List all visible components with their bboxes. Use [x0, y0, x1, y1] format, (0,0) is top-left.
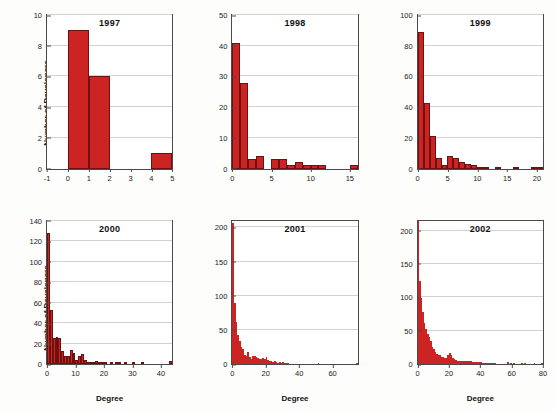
y-tick-label: 10	[219, 133, 232, 142]
y-tick-label: 40	[34, 319, 47, 328]
x-axis-label-2001: Degree	[231, 394, 358, 403]
y-tick-label: 40	[404, 103, 417, 112]
panel-title-2002: 2002	[417, 224, 544, 234]
bars-2002	[418, 221, 543, 365]
panel-title-1998: 1998	[231, 18, 358, 28]
subplot-grid: Number of Developers 0246810-1012345 199…	[0, 0, 556, 411]
y-tick-label: 150	[215, 257, 233, 266]
histogram-bar	[110, 362, 113, 364]
y-tick-label: 120	[29, 237, 47, 246]
histogram-bar	[534, 363, 536, 364]
histogram-bar	[287, 165, 295, 168]
histogram-bar	[513, 167, 519, 169]
x-tick-label: 60	[507, 364, 515, 378]
plot-area-2002: 050100150200020406080	[417, 220, 544, 366]
y-tick-label: 60	[404, 72, 417, 81]
histogram-bar	[495, 167, 501, 169]
plot-area-1998: 01020304050051015	[231, 14, 358, 170]
y-tick-label: 200	[400, 226, 418, 235]
x-tick-label: 1	[87, 169, 91, 183]
panel-2001: 0501001502000204060 2001 Degree	[185, 206, 370, 411]
histogram-bar	[318, 363, 320, 364]
y-tick-label: 50	[219, 11, 232, 20]
x-tick-label: 0	[66, 169, 70, 183]
x-tick-label: 2	[108, 169, 112, 183]
x-tick-label: 4	[149, 169, 153, 183]
x-tick-label: 5	[269, 169, 273, 183]
x-tick-label: 20	[100, 364, 108, 378]
histogram-bar	[287, 363, 289, 364]
histogram-bar	[356, 363, 358, 364]
histogram-bar	[169, 361, 172, 364]
x-tick-label: 15	[503, 169, 511, 183]
histogram-bar	[248, 159, 256, 168]
y-tick-label: 100	[29, 257, 47, 266]
y-tick-label: 100	[400, 11, 418, 20]
x-tick-label: 40	[295, 364, 303, 378]
y-tick-label: 20	[219, 103, 232, 112]
panel-title-2001: 2001	[231, 224, 358, 234]
panel-1997: Number of Developers 0246810-1012345 199…	[0, 0, 185, 206]
x-tick-label: 0	[230, 169, 234, 183]
plot-area-2001: 0501001502000204060	[231, 220, 358, 366]
y-tick-label: 50	[404, 326, 417, 335]
histogram-bar	[256, 156, 264, 168]
x-tick-label: 3	[128, 169, 132, 183]
x-tick-label: 40	[157, 364, 165, 378]
x-tick-label: 20	[533, 169, 541, 183]
y-tick-label: 4	[38, 103, 47, 112]
histogram-bar	[118, 362, 121, 364]
y-tick-label: 100	[400, 293, 418, 302]
y-tick-label: 100	[215, 291, 233, 300]
histogram-bar	[295, 162, 303, 168]
x-tick-label: -1	[44, 169, 51, 183]
x-axis-label-2000: Degree	[46, 394, 173, 403]
x-tick-label: 40	[476, 364, 484, 378]
x-tick-label: 5	[170, 169, 174, 183]
histogram-bar	[68, 30, 89, 168]
bars-1998	[232, 15, 357, 169]
y-tick-label: 40	[219, 41, 232, 50]
panel-title-1999: 1999	[417, 18, 544, 28]
x-tick-label: 5	[445, 169, 449, 183]
x-axis-label-2002: Degree	[417, 394, 544, 403]
panel-1998: 01020304050051015 1998	[185, 0, 370, 206]
bars-1999	[418, 15, 543, 169]
plot-area-1997: 0246810-1012345	[46, 14, 173, 170]
panel-1999: 02040608010005101520 1999	[371, 0, 556, 206]
y-tick-label: 150	[400, 259, 418, 268]
x-tick-label: 20	[445, 364, 453, 378]
histogram-bar	[524, 363, 526, 364]
histogram-bar	[232, 43, 240, 169]
x-tick-label: 0	[230, 364, 234, 378]
y-tick-label: 140	[29, 216, 47, 225]
y-tick-label: 60	[34, 298, 47, 307]
y-tick-label: 8	[38, 41, 47, 50]
y-tick-label: 10	[34, 11, 47, 20]
x-tick-label: 0	[416, 169, 420, 183]
x-tick-label: 30	[128, 364, 136, 378]
x-tick-label: 20	[262, 364, 270, 378]
y-tick-label: 20	[34, 339, 47, 348]
figure-panel-grid: Number of Developers 0246810-1012345 199…	[0, 0, 556, 411]
histogram-bar	[151, 153, 172, 168]
y-tick-label: 80	[34, 278, 47, 287]
x-tick-label: 10	[473, 169, 481, 183]
y-tick-label: 2	[38, 133, 47, 142]
panel-title-2000: 2000	[46, 224, 173, 234]
bars-2000	[47, 221, 172, 365]
histogram-bar	[240, 83, 248, 169]
x-tick-label: 80	[539, 364, 547, 378]
y-tick-label: 80	[404, 41, 417, 50]
histogram-bar	[124, 362, 127, 364]
histogram-bar	[279, 159, 287, 168]
y-tick-label: 30	[219, 72, 232, 81]
y-tick-label: 50	[219, 325, 232, 334]
histogram-bar	[271, 159, 279, 168]
x-tick-label: 60	[328, 364, 336, 378]
histogram-bar	[141, 362, 144, 364]
plot-area-1999: 02040608010005101520	[417, 14, 544, 170]
y-tick-label: 6	[38, 72, 47, 81]
x-tick-label: 15	[346, 169, 354, 183]
x-tick-label: 0	[45, 364, 49, 378]
